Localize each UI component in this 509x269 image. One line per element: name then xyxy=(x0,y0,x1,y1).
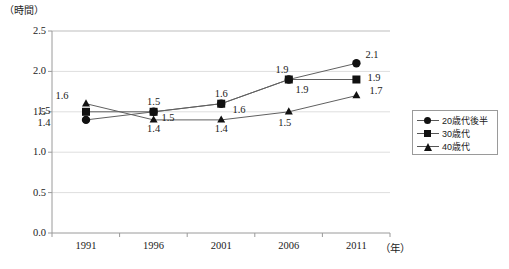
y-tick-2-5: 2.5 xyxy=(18,25,46,36)
data-label-40s-1996: 1.4 xyxy=(144,123,164,134)
x-tick-1991: 1991 xyxy=(64,240,108,251)
chart-legend: 20歳代後半 30歳代 40歳代 xyxy=(412,110,498,155)
data-label-20s-2006: 1.9 xyxy=(292,84,312,95)
legend-item-20s-late[interactable]: 20歳代後半 xyxy=(417,114,493,127)
data-label-20s-2001: 1.6 xyxy=(229,104,249,115)
data-label-30s-2011: 1.9 xyxy=(364,72,384,83)
y-tick-2-0: 2.0 xyxy=(18,65,46,76)
y-tick-0-5: 0.5 xyxy=(18,187,46,198)
x-axis-unit-label: （年） xyxy=(380,240,410,255)
x-tick-2006: 2006 xyxy=(267,240,311,251)
y-tick-0-0: 0.0 xyxy=(18,227,46,238)
square-marker-icon xyxy=(417,128,439,139)
y-tick-1-0: 1.0 xyxy=(18,146,46,157)
line-chart: （時間） xyxy=(0,0,509,269)
data-label-30s-1991: 1.5 xyxy=(34,105,54,116)
legend-label-30s: 30歳代 xyxy=(442,127,470,140)
data-label-30s-1996: 1.5 xyxy=(144,96,164,107)
axis-lines xyxy=(48,31,390,237)
legend-label-20s-late: 20歳代後半 xyxy=(442,114,488,127)
data-label-40s-2006: 1.5 xyxy=(275,117,295,128)
data-label-30s-2006: 1.9 xyxy=(272,64,292,75)
data-label-40s-2011: 1.7 xyxy=(366,85,386,96)
legend-item-40s[interactable]: 40歳代 xyxy=(417,140,493,153)
triangle-marker-icon xyxy=(417,141,439,152)
circle-marker-icon xyxy=(417,115,439,126)
data-label-20s-1991: 1.4 xyxy=(34,117,54,128)
data-label-20s-1996: 1.5 xyxy=(158,112,178,123)
x-tick-2011: 2011 xyxy=(334,240,378,251)
x-tick-1996: 1996 xyxy=(132,240,176,251)
data-label-20s-2011: 2.1 xyxy=(362,49,382,60)
legend-label-40s: 40歳代 xyxy=(442,140,470,153)
x-tick-2001: 2001 xyxy=(199,240,243,251)
legend-item-30s[interactable]: 30歳代 xyxy=(417,127,493,140)
data-label-30s-2001: 1.6 xyxy=(211,88,231,99)
data-label-40s-2001: 1.4 xyxy=(211,123,231,134)
data-label-40s-1991: 1.6 xyxy=(52,90,72,101)
